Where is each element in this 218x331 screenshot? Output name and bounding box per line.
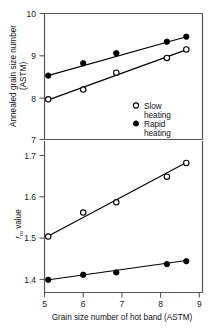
legend-marker-filled-circle — [133, 121, 138, 126]
data-point — [114, 270, 119, 275]
bottom-panel-series-rapid-heating — [46, 259, 190, 283]
bottom-panel-x-ticks — [45, 293, 200, 298]
chart-svg: 10 9 8 7 Annealed grain size number (AST… — [0, 0, 218, 331]
top-panel: 10 9 8 7 Annealed grain size number (AST… — [9, 9, 203, 145]
top-panel-ytick-7: 7 — [31, 135, 36, 145]
legend-item-rapid-heating: Rapid heating — [133, 120, 171, 138]
bottom-panel-y-axis-title: rm value — [14, 209, 24, 239]
data-point — [81, 210, 86, 215]
bottom-panel: 1.7 1.6 1.5 1.4 rm value 5 6 7 8 9 — [14, 141, 203, 322]
figure-container: 10 9 8 7 Annealed grain size number (AST… — [0, 0, 218, 331]
top-panel-y-axis-title: Annealed grain size number (ASTM) — [9, 25, 28, 127]
bottom-panel-xtick-6: 6 — [81, 299, 86, 309]
bottom-panel-ytick-1p7: 1.7 — [24, 151, 36, 161]
data-point — [184, 259, 189, 264]
top-panel-ytick-8: 8 — [31, 94, 36, 104]
data-point — [114, 200, 119, 205]
data-point — [81, 61, 86, 66]
legend-item-slow-heating: Slow heating — [133, 102, 171, 120]
legend-label-rapid-line2: heating — [144, 129, 171, 138]
svg-text:rm value: rm value — [14, 209, 24, 239]
bottom-panel-ytick-1p6: 1.6 — [24, 192, 36, 202]
data-point — [81, 272, 86, 277]
bottom-panel-xtick-7: 7 — [120, 299, 125, 309]
bottom-panel-xtick-5: 5 — [42, 299, 47, 309]
data-point — [184, 160, 189, 165]
data-point — [164, 55, 169, 60]
top-panel-y-axis-title-line1: Annealed grain size number — [9, 25, 18, 127]
data-point — [46, 97, 51, 102]
legend-label-rapid-line1: Rapid — [144, 120, 166, 129]
data-point — [164, 174, 169, 179]
top-panel-ytick-9: 9 — [31, 51, 36, 61]
legend-label-slow-line1: Slow — [144, 102, 162, 111]
data-point — [164, 261, 169, 266]
top-panel-ytick-10: 10 — [27, 9, 37, 19]
bottom-panel-y-ticks — [40, 156, 45, 280]
legend: Slow heating Rapid heating — [133, 102, 171, 138]
data-point — [81, 87, 86, 92]
top-panel-y-ticks — [40, 14, 45, 140]
bottom-panel-ytick-1p5: 1.5 — [24, 233, 36, 243]
bottom-panel-xtick-8: 8 — [158, 299, 163, 309]
bottom-panel-y-axis-title-suffix: value — [14, 209, 23, 231]
bottom-panel-ytick-1p4: 1.4 — [24, 275, 36, 285]
legend-marker-open-circle — [133, 103, 138, 108]
top-panel-y-axis-title-line2: (ASTM) — [19, 62, 28, 90]
data-point — [114, 70, 119, 75]
data-point — [184, 47, 189, 52]
data-point — [164, 39, 169, 44]
bottom-panel-xtick-9: 9 — [197, 299, 202, 309]
data-point — [46, 73, 51, 78]
legend-label-slow-line2: heating — [144, 111, 171, 120]
bottom-panel-x-axis-title: Grain size number of hot band (ASTM) — [52, 313, 193, 322]
data-point — [46, 277, 51, 282]
bottom-panel-fit-slow-heating — [47, 162, 188, 237]
data-point — [184, 34, 189, 39]
data-point — [46, 234, 51, 239]
data-point — [114, 51, 119, 56]
